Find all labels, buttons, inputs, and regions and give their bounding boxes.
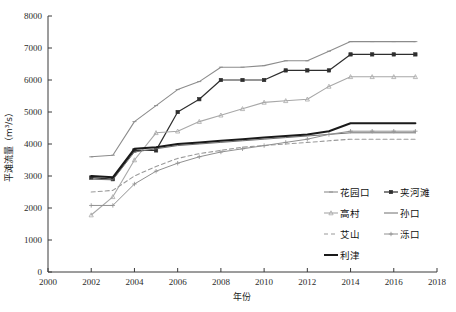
y-tick-label-8000: 8000 [24, 11, 43, 21]
y-tick-label-7000: 7000 [24, 43, 43, 53]
y-tick-label-0: 0 [38, 267, 43, 277]
x-tick-label-2010: 2010 [255, 277, 274, 287]
series-marker-1 [306, 69, 309, 72]
legend-item-0[interactable]: 花园口 [324, 187, 370, 198]
series-marker-5 [175, 161, 179, 165]
series-1 [90, 53, 418, 181]
y-axis-title: 平滩流量（m³/s） [3, 108, 14, 182]
series-marker-1 [219, 78, 222, 81]
legend-item-5[interactable]: 泺口 [384, 229, 420, 240]
series-marker-1 [349, 53, 352, 56]
series-3 [91, 133, 415, 180]
y-tick-label-6000: 6000 [24, 75, 43, 85]
legend-item-4[interactable]: 艾山 [324, 229, 360, 240]
series-marker-1 [262, 78, 265, 81]
y-axis-title-group: 平滩流量（m³/s） [3, 108, 14, 182]
legend-label-0: 花园口 [340, 187, 370, 198]
series-marker-5 [197, 155, 201, 159]
series-marker-5 [89, 203, 93, 207]
x-axis-title: 年份 [233, 291, 251, 302]
series-marker-5 [262, 143, 266, 147]
x-tick-label-2004: 2004 [125, 277, 144, 287]
series-marker-1 [392, 53, 395, 56]
legend-label-6: 利津 [340, 250, 360, 261]
series-line-3 [91, 133, 415, 180]
series-marker-1 [176, 110, 179, 113]
x-tick-label-2000: 2000 [39, 277, 58, 287]
legend-label-2: 高村 [340, 208, 360, 219]
legend-label-1: 夹河滩 [400, 187, 430, 198]
series-marker-1 [327, 69, 330, 72]
legend-marker-5 [389, 232, 393, 236]
y-tick-label-2000: 2000 [24, 203, 43, 213]
x-tick-label-2016: 2016 [385, 277, 404, 287]
y-tick-label-5000: 5000 [24, 107, 43, 117]
legend-marker-1 [389, 190, 392, 193]
legend-label-3: 孙口 [400, 208, 420, 219]
x-tick-label-2014: 2014 [342, 277, 361, 287]
legend-label-4: 艾山 [340, 229, 360, 240]
x-tick-label-2002: 2002 [82, 277, 100, 287]
series-marker-5 [305, 137, 309, 141]
legend-item-6[interactable]: 利津 [324, 250, 360, 261]
series-marker-1 [370, 53, 373, 56]
chart-legend: 花园口夹河滩高村孙口艾山泺口利津 [324, 187, 430, 261]
chart-container: 平滩流量（m³/s） 年份 01000200030004000500060007… [0, 0, 456, 312]
x-tick-label-2018: 2018 [428, 277, 447, 287]
legend-label-5: 泺口 [400, 229, 420, 240]
x-axis-title-group: 年份 [233, 291, 251, 302]
line-chart: 平滩流量（m³/s） 年份 01000200030004000500060007… [0, 0, 456, 312]
legend-item-1[interactable]: 夹河滩 [384, 187, 430, 198]
y-tick-label-3000: 3000 [24, 171, 43, 181]
series-marker-5 [327, 132, 331, 136]
series-marker-1 [198, 98, 201, 101]
x-tick-label-2006: 2006 [169, 277, 188, 287]
x-axis-ticks: 2000200220042006200820102012201420162018 [39, 268, 447, 287]
series-marker-1 [284, 69, 287, 72]
series-line-1 [91, 54, 415, 179]
series-marker-1 [241, 78, 244, 81]
legend-item-2[interactable]: 高村 [324, 208, 360, 219]
x-tick-label-2008: 2008 [212, 277, 231, 287]
legend-item-3[interactable]: 孙口 [384, 208, 420, 219]
x-tick-label-2012: 2012 [298, 277, 316, 287]
y-tick-label-1000: 1000 [24, 235, 43, 245]
series-marker-1 [414, 53, 417, 56]
series-marker-5 [154, 169, 158, 173]
y-tick-label-4000: 4000 [24, 139, 43, 149]
